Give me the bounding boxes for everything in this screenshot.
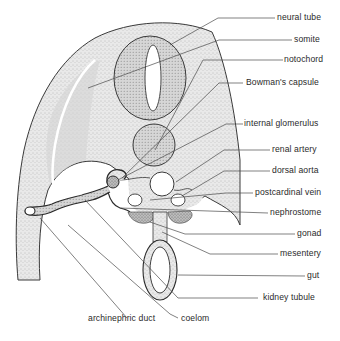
label-kidney-tubule: kidney tubule bbox=[263, 293, 315, 302]
label-bowmans-capsule: Bowman's capsule bbox=[246, 78, 319, 87]
label-internal-glomerulus: internal glomerulus bbox=[244, 119, 319, 128]
label-coelom: coelom bbox=[181, 314, 209, 323]
label-archinephric-duct: archinephric duct bbox=[88, 314, 155, 323]
label-mesentery: mesentery bbox=[280, 249, 321, 258]
nephrostome-shape bbox=[108, 192, 130, 212]
label-nephrostome: nephrostome bbox=[270, 208, 321, 217]
label-gut: gut bbox=[307, 271, 319, 280]
bowmans-capsule-shape bbox=[107, 170, 126, 188]
label-renal-artery: renal artery bbox=[272, 145, 317, 154]
notochord-shape bbox=[133, 124, 175, 166]
gut-shape bbox=[143, 240, 177, 300]
label-notochord: notochord bbox=[284, 55, 323, 64]
label-dorsal-aorta: dorsal aorta bbox=[272, 166, 319, 175]
label-neural-tube: neural tube bbox=[277, 13, 321, 22]
label-somite: somite bbox=[294, 35, 320, 44]
label-postcardinal-vein: postcardinal vein bbox=[255, 188, 321, 197]
neural-tube-shape bbox=[114, 36, 186, 120]
label-gonad: gonad bbox=[297, 229, 321, 238]
